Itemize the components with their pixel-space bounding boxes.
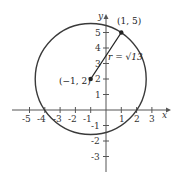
circle-diagram: -5 -4 -3 -2 -1 1 2 3 x 5 4 3 2 1 -1 -2 -… [0,0,182,185]
y-axis-arrow-icon [104,14,109,19]
y-tick-label: 5 [95,28,101,38]
y-tick-label: -2 [91,136,100,146]
y-axis-label: y [97,11,104,21]
x-tick-label: -4 [37,114,46,124]
x-axis-label: x [162,110,167,120]
y-tick-label: 2 [95,74,101,84]
radius-label: r = √13 [108,52,143,62]
x-tick-label: 1 [119,114,125,124]
center-point-label: (−1, 2) [59,76,91,86]
y-tick-label: 1 [95,90,101,100]
y-tick-label: -3 [91,152,100,162]
x-tick-label: -2 [68,114,77,124]
diagram-canvas: -5 -4 -3 -2 -1 1 2 3 x 5 4 3 2 1 -1 -2 -… [0,0,182,185]
edge-point-label: (1, 5) [117,16,141,26]
x-tick-label: 2 [134,114,140,124]
y-tick-label: -1 [91,121,100,131]
x-tick-label: -3 [53,114,62,124]
x-tick-label: 3 [149,114,155,124]
y-tick-label: 4 [95,43,101,53]
x-tick-label: -5 [22,114,31,124]
edge-point [119,30,123,34]
